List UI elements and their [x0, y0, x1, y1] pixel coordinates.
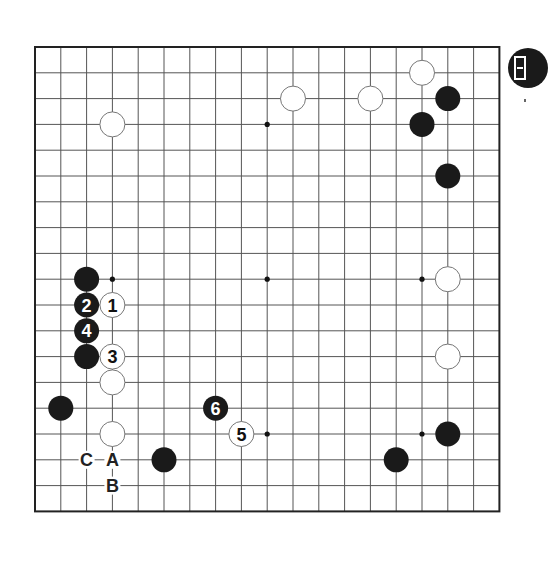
black-stone [74, 267, 99, 292]
badge-glyph [514, 56, 526, 80]
black-stone [74, 344, 99, 369]
black-stone [410, 112, 435, 137]
star-point [265, 122, 270, 127]
white-stone-move-5: 5 [229, 422, 254, 447]
white-stone-icon [435, 344, 460, 369]
marker-c: C [80, 450, 93, 470]
black-stone-icon [435, 422, 460, 447]
black-stone [48, 396, 73, 421]
white-stone-icon [435, 267, 460, 292]
white-stone [410, 60, 435, 85]
star-point [419, 277, 424, 282]
problem-number-badge-icon [508, 48, 548, 88]
white-stone [435, 344, 460, 369]
black-stone-icon [435, 164, 460, 189]
white-stone-icon [358, 86, 383, 111]
white-stone-icon [100, 112, 125, 137]
move-number: 3 [107, 347, 117, 367]
black-stone [435, 164, 460, 189]
white-stone [100, 422, 125, 447]
move-number: 4 [82, 321, 92, 341]
move-number: 1 [107, 296, 117, 316]
white-stone-move-1: 1 [100, 293, 125, 318]
black-stone [384, 447, 409, 472]
black-stone-icon [384, 447, 409, 472]
white-stone-icon [410, 60, 435, 85]
star-point [265, 277, 270, 282]
move-number: 6 [211, 399, 221, 419]
white-stone [281, 86, 306, 111]
white-stone [100, 370, 125, 395]
black-stone [435, 422, 460, 447]
black-stone-move-2: 2 [74, 293, 99, 318]
black-stone-icon [74, 267, 99, 292]
white-stone [358, 86, 383, 111]
black-stone-icon [74, 344, 99, 369]
black-stone-icon [435, 86, 460, 111]
black-stone-icon [48, 396, 73, 421]
black-stone-move-6: 6 [203, 396, 228, 421]
black-stone-icon [410, 112, 435, 137]
star-point [110, 277, 115, 282]
white-stone-icon [100, 370, 125, 395]
move-number: 5 [236, 425, 246, 445]
white-stone-icon [281, 86, 306, 111]
star-point [265, 431, 270, 436]
badge-mark [524, 99, 526, 102]
white-stone-move-3: 3 [100, 344, 125, 369]
marker-a: A [106, 450, 119, 470]
marker-b: B [106, 476, 119, 496]
black-stone-move-4: 4 [74, 318, 99, 343]
white-stone [100, 112, 125, 137]
star-point [419, 431, 424, 436]
stones: 123456 [48, 60, 460, 472]
black-stone [435, 86, 460, 111]
white-stone-icon [100, 422, 125, 447]
move-markers: ABC [79, 450, 121, 496]
move-number: 2 [82, 296, 92, 316]
black-stone-icon [152, 447, 177, 472]
black-stone [152, 447, 177, 472]
white-stone [435, 267, 460, 292]
